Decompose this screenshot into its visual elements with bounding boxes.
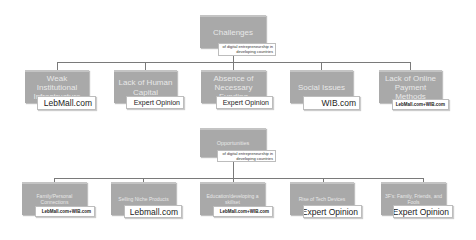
source-tag: LebMall.com bbox=[37, 96, 96, 110]
node-label: 3F's: Family, Friends, and Fools bbox=[383, 194, 444, 206]
connector bbox=[233, 162, 234, 178]
node-label: Education/developing a skillset bbox=[202, 194, 263, 206]
node-label: Lack of Online Payment Methods bbox=[381, 74, 440, 102]
source-tag: WIB.com bbox=[303, 96, 360, 110]
connector bbox=[145, 62, 146, 70]
source-tag: Expert Opinion bbox=[393, 205, 453, 218]
source-tag: Lebmall.com bbox=[124, 205, 182, 218]
connector bbox=[57, 62, 58, 70]
source-tag: Expert Opinion bbox=[126, 96, 184, 109]
node-label: Lack of Human Capital bbox=[116, 78, 175, 96]
connector bbox=[410, 62, 411, 70]
node-label: Rise of Tech Devices bbox=[299, 197, 346, 203]
connector bbox=[54, 178, 424, 179]
connector bbox=[321, 62, 322, 70]
source-tag: Expert Opinion bbox=[303, 205, 362, 218]
connector bbox=[233, 62, 234, 70]
source-tag: Expert Opinion bbox=[216, 96, 273, 109]
node-label: Family/Personal Connections bbox=[24, 194, 85, 206]
source-tag: LebMall.com+WIB.com bbox=[213, 206, 273, 217]
source-tag: LebMall.com+WIB.com bbox=[35, 206, 95, 217]
node-label: Challenges bbox=[213, 28, 253, 37]
opportunities-root-sublabel: of digital entrepreneurship in developin… bbox=[217, 150, 276, 162]
node-label: Selling Niche Products bbox=[118, 197, 168, 203]
challenges-root-sublabel: of digital entrepreneurship in developin… bbox=[218, 43, 276, 56]
node-label: Opportunities bbox=[217, 140, 250, 146]
node-label: Social Issues bbox=[298, 83, 345, 92]
connector bbox=[57, 62, 411, 63]
source-tag: LebMall.com+WIB.com bbox=[392, 99, 449, 110]
